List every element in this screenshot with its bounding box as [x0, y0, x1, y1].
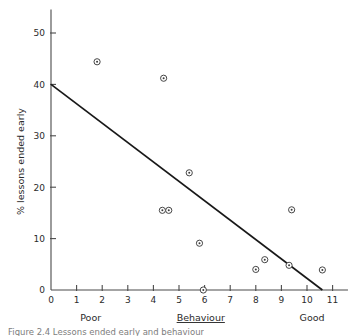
x-tick-label: 5 [176, 295, 182, 305]
x-tick-label: 3 [125, 295, 131, 305]
axis-titles-group: PoorBehaviourGood% lessons ended early [15, 108, 325, 323]
data-points-group [94, 59, 325, 293]
x-tick-label: 2 [99, 295, 105, 305]
data-point [253, 266, 259, 272]
data-point [262, 257, 268, 263]
data-point [286, 262, 292, 268]
data-point [186, 170, 192, 176]
data-point [166, 207, 172, 213]
y-tick-labels: 01020304050 [34, 28, 46, 295]
y-axis-title: % lessons ended early [15, 108, 26, 215]
x-axis-low-anchor-label: Poor [80, 312, 101, 323]
trend-line [51, 84, 322, 290]
marker-dot [198, 242, 200, 244]
x-tick-label: 0 [48, 295, 54, 305]
y-tick-label: 0 [39, 285, 45, 295]
marker-dot [163, 77, 165, 79]
data-point [159, 207, 165, 213]
y-tick-label: 50 [34, 28, 46, 38]
marker-dot [188, 172, 190, 174]
x-tick-label: 9 [279, 295, 285, 305]
x-tick-label: 8 [253, 295, 259, 305]
data-point [196, 240, 202, 246]
x-tick-label: 1 [74, 295, 80, 305]
data-point [289, 207, 295, 213]
marker-dot [161, 209, 163, 211]
x-tick-label: 11 [327, 295, 338, 305]
x-tick-label: 10 [301, 295, 313, 305]
marker-dot [202, 289, 204, 291]
x-axis-high-anchor-label: Good [300, 312, 325, 323]
x-tick-label: 4 [151, 295, 157, 305]
data-point [200, 287, 206, 293]
y-tick-label: 10 [34, 234, 46, 244]
marker-dot [255, 268, 257, 270]
x-axis-title: Behaviour [177, 312, 225, 323]
data-point [161, 75, 167, 81]
marker-dot [291, 209, 293, 211]
marker-dot [288, 264, 290, 266]
marker-dot [168, 209, 170, 211]
trend-line-group [51, 84, 322, 290]
tick-marks-group [50, 33, 333, 291]
axes-group [51, 10, 348, 290]
figure-caption: Figure 2.4 Lessons ended early and behav… [8, 327, 204, 336]
marker-dot [96, 61, 98, 63]
x-tick-labels: 01234567891011 [48, 295, 338, 305]
data-point [94, 59, 100, 65]
data-point [319, 267, 325, 273]
y-tick-label: 40 [34, 80, 46, 90]
marker-dot [321, 269, 323, 271]
y-tick-label: 20 [34, 183, 46, 193]
x-tick-label: 6 [202, 295, 208, 305]
x-tick-label: 7 [227, 295, 233, 305]
marker-dot [264, 259, 266, 261]
y-tick-label: 30 [34, 131, 46, 141]
